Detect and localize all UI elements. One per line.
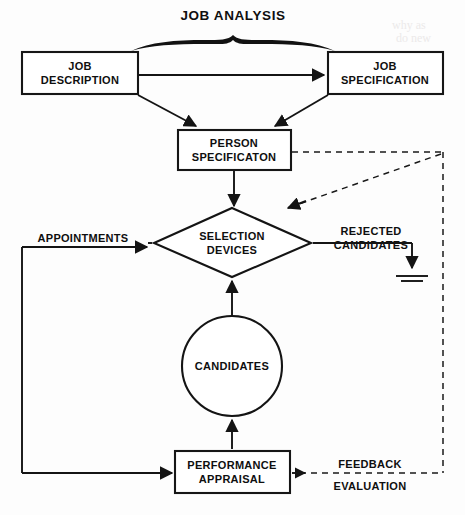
person-specification-label-line1: PERSON (210, 137, 258, 149)
diagram-page: why as do new JOB ANALYSIS JOB DESCRIPTI… (0, 0, 465, 515)
job-analysis-flow-diagram: JOB ANALYSIS JOB DESCRIPTION JOB SPECIFI… (0, 0, 465, 515)
performance-appraisal-label-line1: PERFORMANCE (187, 459, 276, 471)
node-job-specification[interactable]: JOB SPECIFICATION (328, 52, 443, 94)
person-specification-label-line2: SPECIFICATON (192, 151, 276, 163)
node-person-specification[interactable]: PERSON SPECIFICATON (178, 130, 291, 170)
node-selection-devices[interactable]: SELECTION DEVICES (154, 208, 311, 277)
job-description-label-line2: DESCRIPTION (41, 74, 119, 86)
job-description-label-line1: JOB (68, 60, 92, 72)
label-feedback: FEEDBACK (338, 458, 402, 470)
arrow-description-to-person-spec (138, 95, 196, 126)
node-performance-appraisal[interactable]: PERFORMANCE APPRAISAL (175, 451, 290, 493)
label-evaluation: EVALUATION (334, 480, 407, 492)
label-rejected-candidates-line2: CANDIDATES (334, 239, 408, 251)
job-specification-label-line2: SPECIFICATION (341, 74, 429, 86)
job-specification-label-line1: JOB (373, 60, 397, 72)
ground-terminator-icon (396, 276, 428, 281)
dashed-diagonal-to-selection (296, 154, 441, 205)
job-analysis-brace (131, 35, 335, 51)
label-appointments: APPOINTMENTS (38, 232, 129, 244)
arrowhead-dashed-to-selection (288, 201, 306, 208)
arrow-specification-to-person-spec (275, 95, 328, 126)
performance-appraisal-label-line2: APPRAISAL (199, 473, 265, 485)
node-candidates[interactable]: CANDIDATES (182, 316, 282, 416)
selection-devices-label-line1: SELECTION (199, 230, 265, 242)
candidates-label: CANDIDATES (195, 360, 269, 372)
label-rejected-candidates-line1: REJECTED (340, 225, 401, 237)
diagram-title: JOB ANALYSIS (180, 8, 285, 23)
node-job-description[interactable]: JOB DESCRIPTION (22, 52, 138, 94)
selection-devices-label-line2: DEVICES (207, 244, 257, 256)
